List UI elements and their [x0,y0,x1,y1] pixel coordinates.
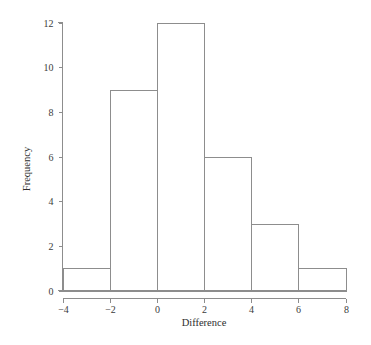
x-axis-tick-labels: −4−202468 [58,304,349,315]
histogram-bar [299,269,347,292]
y-axis-tick-label: 2 [49,241,54,252]
y-axis-tick-labels: 024681012 [44,18,54,297]
y-axis-tick-label: 8 [49,107,54,118]
histogram-bar [64,269,111,292]
x-axis-tick-label: 2 [202,304,207,315]
x-axis-tick-label: 4 [249,304,254,315]
y-axis-tick-label: 12 [44,18,54,29]
histogram-bars [64,24,347,292]
histogram-bar [252,225,299,292]
x-axis-tick-label: −4 [58,304,69,315]
x-axis-tick-label: −2 [105,304,116,315]
histogram-figure: 024681012 −4−202468 Difference Frequency [0,0,371,345]
y-axis-ticks [59,24,63,292]
x-axis-tick-label: 6 [296,304,301,315]
y-axis: 024681012 [44,18,63,297]
histogram-bar [111,91,158,292]
x-axis-tick-label: 8 [344,304,349,315]
y-axis-tick-label: 0 [49,286,54,297]
x-axis: −4−202468 [58,299,349,315]
y-axis-tick-label: 10 [44,62,54,73]
x-axis-tick-label: 0 [155,304,160,315]
histogram-plot-area: 024681012 −4−202468 Difference Frequency [0,0,371,345]
y-axis-tick-label: 4 [49,196,54,207]
histogram-bar [205,158,252,292]
x-axis-ticks [64,299,347,303]
y-axis-tick-label: 6 [49,152,54,163]
y-axis-title: Frequency [21,146,32,191]
histogram-bar [158,24,205,292]
x-axis-title: Difference [182,317,227,328]
